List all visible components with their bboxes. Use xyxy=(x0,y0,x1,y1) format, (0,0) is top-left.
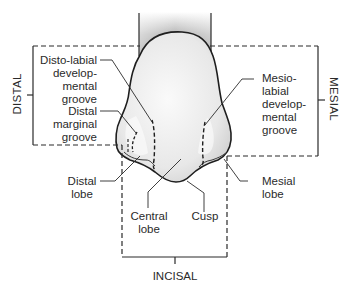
central-lobe-label: Central lobe xyxy=(128,210,170,236)
mesial-region-label: MESIAL xyxy=(328,74,340,124)
mesio-labial-groove-label: Mesio- labial develop- mental groove xyxy=(262,72,317,137)
distal-lobe-label: Distal lobe xyxy=(66,175,98,201)
distal-marginal-groove-label: Distal marginal groove xyxy=(35,105,97,144)
incisal-region-label: INCISAL xyxy=(145,270,205,283)
distal-region-label: DISTAL xyxy=(11,71,23,117)
tooth-diagram: DISTAL MESIAL INCISAL Disto-labial devel… xyxy=(0,0,347,288)
mesial-lobe-label: Mesial lobe xyxy=(262,175,302,201)
crown xyxy=(116,32,231,182)
cusp-label: Cusp xyxy=(190,210,220,223)
disto-labial-groove-label: Disto-labial develop- mental groove xyxy=(35,54,97,106)
